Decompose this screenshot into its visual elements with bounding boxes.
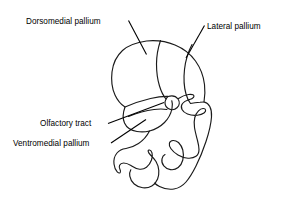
- figure-container: Dorsomedial pallium Lateral pallium Olfa…: [0, 0, 291, 199]
- label-dorsomedial-pallium: Dorsomedial pallium: [26, 17, 101, 27]
- dorsomedial-lateral-divider: [157, 41, 167, 100]
- label-ventromedial-pallium: Ventromedial pallium: [13, 139, 89, 149]
- ventromedial-pallium-leader: [111, 120, 146, 144]
- dorsomedial-pallium-leader: [129, 21, 147, 55]
- ventricle-contour: [169, 94, 205, 158]
- lateral-pallium-leader: [186, 26, 205, 59]
- olfactory-tract-stalk-lower: [129, 109, 168, 116]
- olfactory-tract-leader: [108, 103, 164, 124]
- ventral-lobe-contour: [150, 101, 173, 131]
- label-olfactory-tract: Olfactory tract: [40, 119, 91, 129]
- olfactory-tract-stalk-upper: [125, 96, 168, 107]
- label-lateral-pallium: Lateral pallium: [207, 22, 261, 32]
